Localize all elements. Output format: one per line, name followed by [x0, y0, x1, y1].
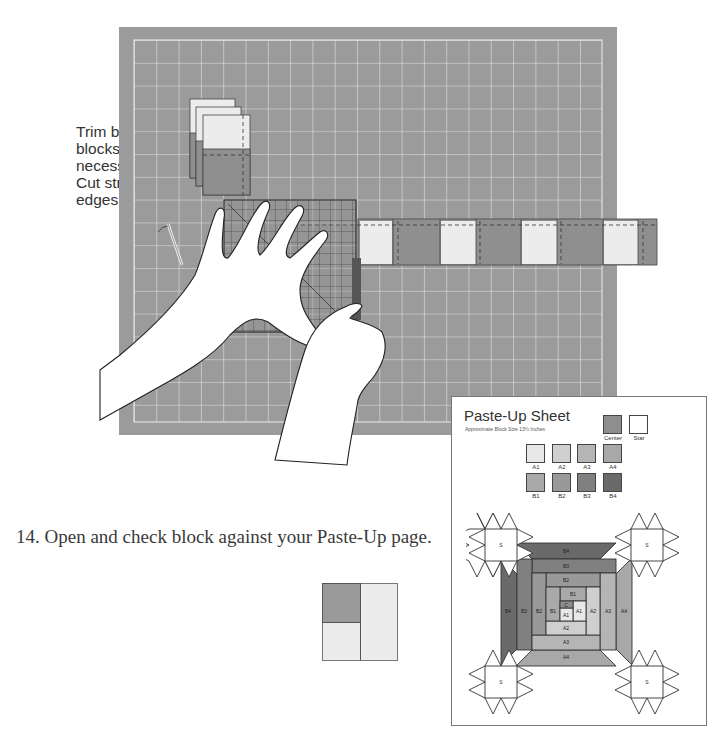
- label-b2: B2: [536, 608, 542, 614]
- label-b4: B4: [505, 608, 511, 614]
- sheet-title: Paste-Up Sheet: [464, 407, 570, 424]
- swatch-b4: [603, 473, 622, 492]
- block-preview-icon: [322, 583, 398, 661]
- swatch-a4: [603, 444, 622, 463]
- label-a2: A2: [590, 608, 596, 614]
- swatch-b1: [526, 473, 545, 492]
- step-instruction: 14. Open and check block against your Pa…: [16, 526, 432, 548]
- swatch-center: [603, 415, 622, 434]
- label-a1: A1: [563, 612, 569, 618]
- swatch-b3: [577, 473, 596, 492]
- sheet-subtitle: Approximate Block Size 13½ Inches: [465, 426, 545, 432]
- label-b1: B1: [570, 591, 576, 597]
- label-b1: B1: [550, 608, 556, 614]
- swatch-a1: [526, 444, 545, 463]
- swatch-label: B4: [598, 493, 628, 499]
- label-a3: A3: [563, 639, 569, 645]
- label-b4: B4: [563, 548, 569, 554]
- paste-up-sheet: Paste-Up Sheet Approximate Block Size 13…: [451, 396, 707, 726]
- swatch-a2: [552, 444, 571, 463]
- label-b3: B3: [563, 563, 569, 569]
- swatch-label: A4: [598, 464, 628, 470]
- label-a4: A4: [563, 654, 569, 660]
- label-b3: B3: [521, 608, 527, 614]
- label-a2: A2: [563, 625, 569, 631]
- swatch-star: [629, 415, 648, 434]
- log-cabin-star-block-diagram: B4 B3 B2 B1 B4 B3 B2 B1 C A1 A1 A2 A2 A3…: [466, 501, 696, 721]
- label-a3: A3: [605, 608, 611, 614]
- stacked-fabric-pieces: [190, 99, 250, 195]
- label-a1: A1: [576, 608, 582, 614]
- swatch-b2: [552, 473, 571, 492]
- label-b2: B2: [563, 577, 569, 583]
- label-center: C: [564, 602, 568, 608]
- swatch-a3: [577, 444, 596, 463]
- label-a4: A4: [621, 608, 627, 614]
- swatch-label: Star: [624, 435, 654, 441]
